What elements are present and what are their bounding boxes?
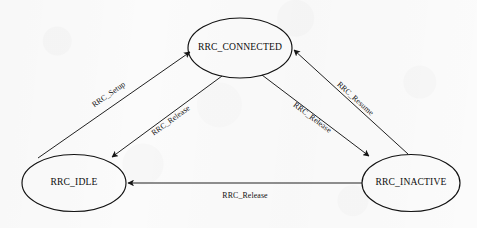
transition-inactive-to-connected[interactable]: RRC_Resume [294, 50, 408, 154]
edge-label-rrc-release-inactive-to-idle: RRC_Release [222, 191, 268, 200]
edge-label-rrc-release-connected-to-idle: RRC_Release [150, 103, 192, 137]
state-node-inactive[interactable]: RRC_INACTIVE [362, 155, 460, 212]
transition-idle-to-connected[interactable]: RRC_Setup [38, 52, 190, 158]
transition-connected-to-idle[interactable]: RRC_Release [112, 76, 222, 157]
state-machine-diagram: RRC_Setup RRC_Release RRC_Release RRC_Re… [0, 0, 477, 228]
state-node-connected[interactable]: RRC_CONNECTED [188, 18, 292, 78]
transition-line-inactive-to-connected [294, 50, 408, 154]
transition-connected-to-inactive[interactable]: RRC_Release [262, 75, 369, 156]
edge-label-rrc-release-connected-to-inactive: RRC_Release [292, 100, 334, 135]
transition-inactive-to-idle[interactable]: RRC_Release [128, 183, 362, 200]
rrc-state-diagram-canvas: RRC_Setup RRC_Release RRC_Release RRC_Re… [0, 0, 477, 228]
transition-line-idle-to-connected [38, 52, 190, 158]
edge-label-rrc-setup: RRC_Setup [90, 80, 127, 110]
state-label-connected: RRC_CONNECTED [198, 41, 282, 52]
state-label-idle: RRC_IDLE [50, 176, 97, 187]
state-node-idle[interactable]: RRC_IDLE [22, 155, 126, 212]
edge-label-rrc-resume: RRC_Resume [335, 80, 376, 118]
state-label-inactive: RRC_INACTIVE [375, 176, 446, 187]
